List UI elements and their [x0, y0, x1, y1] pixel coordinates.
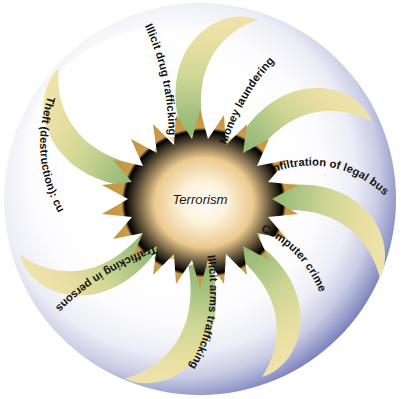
diagram-canvas: Terrorism Illicit drug trafficking Money…	[0, 0, 401, 399]
center-label: Terrorism	[172, 192, 227, 207]
terrorism-convergence-diagram: Terrorism Illicit drug trafficking Money…	[0, 0, 401, 399]
